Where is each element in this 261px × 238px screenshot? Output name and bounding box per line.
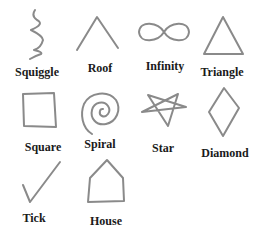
triangle-label: Triangle xyxy=(200,65,243,80)
triangle-icon xyxy=(201,14,245,56)
spiral-label: Spiral xyxy=(84,137,115,152)
house-icon xyxy=(85,158,127,204)
tick-label: Tick xyxy=(22,211,45,226)
roof-icon xyxy=(75,12,120,52)
spiral-icon xyxy=(78,88,122,136)
star-icon xyxy=(140,92,188,130)
squiggle-label: Squiggle xyxy=(15,65,59,80)
infinity-icon xyxy=(136,20,192,44)
square-label: Square xyxy=(25,140,61,155)
squiggle-icon xyxy=(25,8,50,60)
diamond-label: Diamond xyxy=(201,146,248,161)
house-label: House xyxy=(90,214,122,229)
tick-icon xyxy=(20,160,62,204)
diamond-icon xyxy=(207,86,241,138)
roof-label: Roof xyxy=(88,61,113,76)
infinity-label: Infinity xyxy=(146,59,185,74)
square-icon xyxy=(20,90,60,130)
star-label: Star xyxy=(152,141,174,156)
